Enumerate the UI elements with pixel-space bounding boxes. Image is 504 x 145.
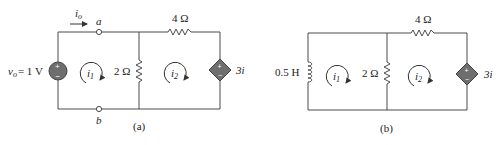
mesh-i1-label: i1: [333, 70, 340, 84]
terminal-b-icon: [96, 106, 101, 111]
terminal-a-icon: [96, 29, 101, 34]
dep-plus-sign: +: [218, 63, 222, 70]
mesh-i2-label: i2: [415, 70, 422, 84]
inductor-label: 0.5 H: [275, 66, 300, 78]
circuit-b: 0.5 H 4 Ω 2 Ω i1 i2 + − 3i (b): [275, 13, 493, 135]
dep-source-label: 3i: [483, 68, 493, 80]
node-a-label: a: [96, 15, 102, 27]
resistor-2ohm-label: 2 Ω: [114, 65, 130, 77]
caption-a: (a): [133, 120, 146, 133]
current-io-label: io: [75, 7, 82, 21]
mesh-i2-label: i2: [171, 67, 178, 81]
caption-b: (b): [380, 122, 393, 135]
inductor-icon: [308, 62, 312, 84]
resistor-4ohm-label: 4 Ω: [172, 12, 188, 24]
dep-minus-sign: −: [465, 76, 469, 83]
circuit-figures: a b io 4 Ω 2 Ω + − vo= 1 V i1 i2 + − 3i …: [0, 0, 504, 145]
mesh-i1-label: i1: [87, 67, 94, 81]
resistor-2ohm-icon: [136, 60, 142, 82]
dep-plus-sign: +: [465, 67, 469, 74]
node-b-label: b: [96, 114, 102, 126]
dep-source-label: 3i: [235, 64, 245, 76]
resistor-2ohm-icon: [384, 62, 390, 84]
dep-minus-sign: −: [218, 72, 222, 79]
source-minus-sign: −: [56, 72, 61, 81]
resistor-4ohm-icon: [411, 30, 434, 36]
source-label: vo= 1 V: [8, 65, 43, 79]
resistor-4ohm-icon: [168, 29, 191, 35]
circuit-a: a b io 4 Ω 2 Ω + − vo= 1 V i1 i2 + − 3i …: [8, 7, 245, 133]
source-plus-sign: +: [55, 62, 60, 71]
resistor-2ohm-label: 2 Ω: [362, 67, 378, 79]
resistor-4ohm-label: 4 Ω: [415, 13, 431, 25]
